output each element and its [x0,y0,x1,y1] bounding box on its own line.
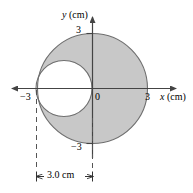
x-axis-title: x (cm) [160,92,186,102]
dimension-label: 3.0 cm [47,170,74,180]
x-axis-unit: (cm) [164,91,185,102]
y-axis-title: y (cm) [62,10,88,20]
origin-label: 0 [95,92,100,102]
tick-label-y-negative: −3 [71,142,82,152]
physics-diagram-figure: y (cm) x (cm) 3 −3 −3 3 0 3.0 cm [0,0,193,193]
y-axis-unit: (cm) [66,9,87,20]
tick-label-x-positive: 3 [145,92,150,102]
tick-label-x-negative: −3 [20,92,31,102]
tick-label-y-positive: 3 [76,25,81,35]
